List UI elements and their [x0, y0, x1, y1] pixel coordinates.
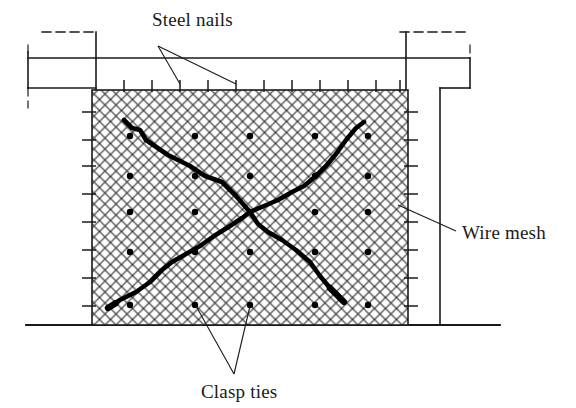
clasp-tie — [127, 209, 133, 215]
infill-wall-diagram: Steel nails Wire mesh Clasp ties — [0, 0, 576, 408]
clasp-tie — [365, 173, 371, 179]
crack-tip-lower-left — [108, 303, 116, 308]
clasp-tie — [247, 209, 253, 215]
clasp-tie — [192, 249, 198, 255]
clasp-tie — [365, 302, 371, 308]
clasp-tie — [127, 173, 133, 179]
clasp-tie — [312, 209, 318, 215]
clasp-tie — [365, 209, 371, 215]
clasp-tie — [312, 302, 318, 308]
clasp-tie — [365, 133, 371, 139]
clasp-tie — [365, 249, 371, 255]
clasp-tie — [312, 173, 318, 179]
clasp-tie — [192, 173, 198, 179]
label-steel-nails: Steel nails — [152, 9, 233, 30]
clasp-tie — [127, 302, 133, 308]
clasp-tie — [127, 133, 133, 139]
clasp-tie — [247, 133, 253, 139]
clasp-tie — [127, 249, 133, 255]
figure-root: Steel nails Wire mesh Clasp ties — [0, 0, 576, 408]
clasp-tie — [247, 173, 253, 179]
clasp-tie — [312, 133, 318, 139]
clasp-tie — [247, 249, 253, 255]
clasp-tie — [192, 133, 198, 139]
clasp-tie — [192, 209, 198, 215]
label-wire-mesh: Wire mesh — [462, 222, 546, 243]
label-clasp-ties: Clasp ties — [201, 381, 277, 402]
clasp-tie — [312, 249, 318, 255]
